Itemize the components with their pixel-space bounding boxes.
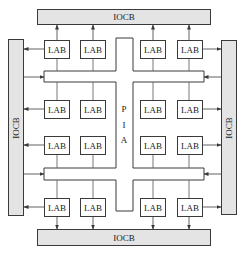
lab-r3-c1: LAB [44,136,70,155]
lab-r1-c3: LAB [140,40,166,59]
lab-label: LAB [181,45,199,55]
lab-label: LAB [48,203,66,213]
lab-label: LAB [144,203,162,213]
lab-r4-c1: LAB [44,198,70,217]
lab-r1-c2: LAB [80,40,106,59]
lab-r3-c4: LAB [177,136,203,155]
lab-r4-c4: LAB [177,198,203,217]
lab-label: LAB [84,141,102,151]
lab-label: LAB [181,105,199,115]
cpld-architecture-diagram: IOCB IOCB IOCB IOCB P I A LAB LAB LAB LA… [0,0,243,256]
lab-label: LAB [144,45,162,55]
lab-r3-c3: LAB [140,136,166,155]
lab-r2-c3: LAB [140,100,166,119]
lab-label: LAB [48,45,66,55]
lab-r4-c3: LAB [140,198,166,217]
lab-r2-c4: LAB [177,100,203,119]
lab-label: LAB [84,105,102,115]
lab-r1-c4: LAB [177,40,203,59]
lab-label: LAB [181,141,199,151]
lab-label: LAB [181,203,199,213]
lab-label: LAB [48,141,66,151]
lab-label: LAB [48,105,66,115]
lab-label: LAB [144,141,162,151]
pia-letter-i: I [118,120,130,130]
lab-r1-c1: LAB [44,40,70,59]
pia-letter-p: P [118,104,130,114]
lab-r2-c1: LAB [44,100,70,119]
lab-r4-c2: LAB [80,198,106,217]
lab-label: LAB [84,203,102,213]
lab-r2-c2: LAB [80,100,106,119]
pia-letter-a: A [118,135,130,145]
lab-r3-c2: LAB [80,136,106,155]
lab-label: LAB [144,105,162,115]
lab-label: LAB [84,45,102,55]
